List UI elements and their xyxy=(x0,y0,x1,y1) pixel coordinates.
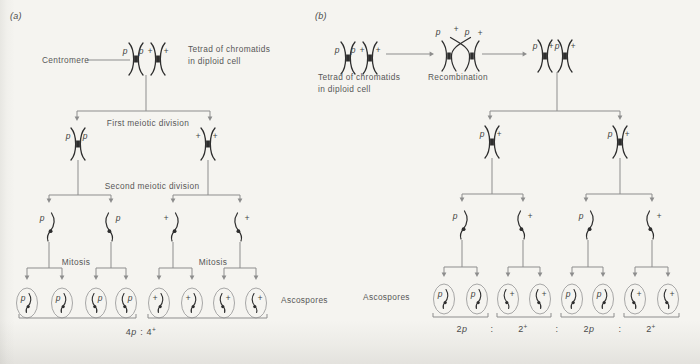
ascospore xyxy=(625,284,646,314)
ratio-b-colon: : xyxy=(619,324,622,334)
ratio-b-term: 2p xyxy=(457,324,468,334)
allele-label: p xyxy=(607,129,613,139)
mitosis-label: Mitosis xyxy=(199,257,227,267)
chromatid-glyph xyxy=(587,211,594,239)
allele-label: + xyxy=(360,45,365,55)
chromatid-glyph xyxy=(461,211,468,239)
spore-allele-label: + xyxy=(637,289,642,299)
spore-allele-label: + xyxy=(258,293,263,303)
ascospore xyxy=(214,288,235,318)
tetrad-caption-line1: Tetrad of chromatids xyxy=(188,44,270,54)
tetrad-caption-line1: Tetrad of chromatids xyxy=(318,72,400,82)
tree-lines-b xyxy=(386,54,668,275)
spore-allele-label: + xyxy=(186,293,191,303)
allele-label: p xyxy=(479,129,485,139)
allele-label: + xyxy=(657,211,662,221)
spore-allele-label: p xyxy=(55,293,61,303)
ascospore xyxy=(498,284,519,314)
allele-label: + xyxy=(571,41,576,51)
ratio-b-term: 2p xyxy=(584,324,595,334)
panel-a-tag: (a) xyxy=(10,11,22,21)
allele-label: + xyxy=(148,46,153,56)
allele-label: + xyxy=(213,131,218,141)
spore-allele-label: p xyxy=(470,289,476,299)
recombination-label: Recombination xyxy=(428,72,488,82)
allele-label: p xyxy=(578,211,584,221)
chromatid-glyph xyxy=(106,213,113,241)
allele-label: p xyxy=(122,46,128,56)
tetrad-caption-line2: in diploid cell xyxy=(188,56,241,66)
spore-allele-label: + xyxy=(542,289,547,299)
chromatid-glyph xyxy=(235,213,242,241)
allele-label: + xyxy=(196,131,201,141)
allele-label: p xyxy=(65,131,71,141)
spore-allele-label: + xyxy=(153,293,158,303)
arrow-icons-b xyxy=(430,52,671,277)
allele-label: p xyxy=(554,41,560,51)
arrow-down-icons-a xyxy=(25,117,259,280)
ascospore xyxy=(246,288,267,318)
spore-allele-label: p xyxy=(437,289,443,299)
spore-allele-label: p xyxy=(565,289,571,299)
allele-label: p xyxy=(435,27,441,37)
panel-a: (a) p p + + Centromere Tetrad of chromat… xyxy=(10,11,328,337)
centromere-label: Centromere xyxy=(42,55,89,65)
ratio-a: 4p:4+ xyxy=(126,326,156,337)
ascospore xyxy=(86,288,107,318)
allele-label: + xyxy=(549,41,554,51)
ascospore xyxy=(116,288,137,318)
ascospore xyxy=(530,284,551,314)
first-division-label: First meiotic division xyxy=(107,118,189,128)
allele-label: p xyxy=(39,213,45,223)
spore-allele-label: + xyxy=(510,289,515,299)
meiosis-tetrad-diagram: (a) p p + + Centromere Tetrad of chromat… xyxy=(0,0,700,364)
allele-label: p xyxy=(138,46,144,56)
recombination-glyph xyxy=(442,38,479,72)
ascospore xyxy=(658,284,679,314)
bracket xyxy=(433,313,679,317)
second-division-label: Second meiotic division xyxy=(105,181,200,191)
allele-label: p xyxy=(334,45,340,55)
allele-label: + xyxy=(497,129,502,139)
chromatid-glyph xyxy=(647,211,654,239)
allele-label: p xyxy=(464,27,470,37)
spore-allele-label: + xyxy=(670,289,675,299)
ratio-b-term: 2+ xyxy=(646,323,656,334)
allele-label: p xyxy=(115,213,121,223)
allele-label: p xyxy=(532,41,538,51)
allele-label: p xyxy=(82,131,88,141)
tetrad-caption-line2: in diploid cell xyxy=(318,84,371,94)
allele-label: p xyxy=(452,211,458,221)
tree-lines-a xyxy=(27,60,256,277)
spore-allele-label: + xyxy=(226,293,231,303)
allele-label: + xyxy=(454,24,459,34)
ratio-b-colon: : xyxy=(491,324,494,334)
spore-allele-label: p xyxy=(20,293,26,303)
allele-label: + xyxy=(528,211,533,221)
allele-label: + xyxy=(376,45,381,55)
chromatid-glyph xyxy=(172,213,179,241)
panel-b: (b) p p + + Tetrad of chromatids in dipl… xyxy=(315,11,679,334)
ascospores-label: Ascospores xyxy=(363,292,410,302)
allele-label: + xyxy=(164,213,169,223)
textbook-figure-page: (a) p p + + Centromere Tetrad of chromat… xyxy=(0,0,700,364)
spore-allele-label: p xyxy=(596,289,602,299)
allele-label: + xyxy=(478,28,483,38)
chromatid-glyph xyxy=(518,211,525,239)
allele-label: + xyxy=(164,46,169,56)
allele-label: + xyxy=(625,129,630,139)
mitosis-label: Mitosis xyxy=(62,257,90,267)
ascospores-label: Ascospores xyxy=(281,295,328,305)
ratio-b-colon: : xyxy=(556,324,559,334)
spore-allele-label: p xyxy=(97,293,103,303)
spore-allele-label: p xyxy=(127,293,133,303)
allele-label: + xyxy=(245,213,250,223)
ratio-b-term: 2+ xyxy=(518,323,528,334)
allele-label: p xyxy=(350,45,356,55)
chromatid-glyph xyxy=(48,213,55,241)
panel-b-tag: (b) xyxy=(315,11,327,21)
